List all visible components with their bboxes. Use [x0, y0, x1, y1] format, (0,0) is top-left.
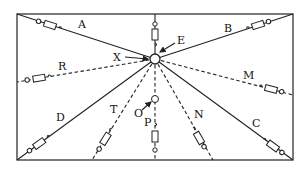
label-p: P — [144, 116, 152, 129]
branch-top — [152, 14, 158, 59]
label-b: B — [224, 22, 232, 35]
branch-b: B — [155, 14, 293, 59]
label-d: D — [56, 111, 65, 124]
branch-r: R — [17, 59, 155, 83]
label-t: T — [110, 103, 118, 116]
node-o — [152, 96, 159, 103]
wiring-diagram: A B R M — [0, 0, 307, 169]
label-x: X — [113, 51, 121, 64]
branch-p: P — [144, 59, 159, 160]
central-hub — [150, 54, 160, 64]
pointer-e: E — [160, 34, 185, 52]
branch-c: C — [155, 59, 293, 160]
label-r: R — [58, 60, 67, 73]
branch-t: T — [92, 59, 155, 160]
label-e: E — [177, 34, 185, 47]
branch-m: M — [155, 59, 293, 95]
pointer-x: X — [113, 51, 148, 64]
label-o: O — [134, 107, 143, 120]
branch-a: A — [17, 14, 155, 59]
label-a: A — [77, 18, 87, 31]
label-n: N — [194, 108, 204, 121]
label-c: C — [252, 117, 260, 130]
label-m: M — [243, 69, 254, 82]
branch-n: N — [155, 59, 213, 160]
